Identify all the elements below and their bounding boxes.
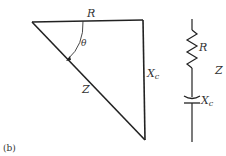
circuit-label-r: R <box>198 41 207 54</box>
impedance-diagram: R θ Xc Z R Z Xc (b) <box>0 0 226 156</box>
side-xc <box>143 20 145 140</box>
series-rc-circuit <box>184 19 200 142</box>
label-xc: Xc <box>146 67 160 81</box>
side-r <box>32 20 143 22</box>
circuit-label-xc: Xc <box>200 94 214 108</box>
figure-label: (b) <box>3 143 16 153</box>
side-z <box>32 22 145 140</box>
resistor-icon <box>187 30 197 68</box>
impedance-triangle <box>32 20 145 140</box>
label-r: R <box>86 7 95 20</box>
label-z: Z <box>81 83 90 96</box>
circuit-label-z: Z <box>214 64 223 77</box>
label-theta: θ <box>81 38 87 48</box>
